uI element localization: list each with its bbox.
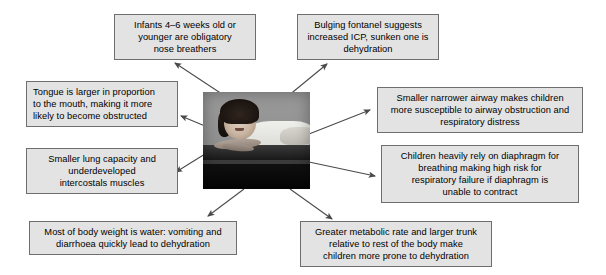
arrow-to-tongue: [181, 116, 205, 126]
box-line: Most of body weight is water: vomiting a…: [44, 226, 221, 238]
box-line: Smaller lung capacity and: [48, 153, 156, 165]
box-line: breathing making high risk for: [418, 162, 541, 174]
box-line: likely to become obstructed: [33, 110, 147, 122]
box-line: respiratory failure if diaphragm is: [412, 174, 549, 186]
box-line: respiratory distress: [440, 116, 520, 128]
box-line: dehydration: [343, 43, 392, 55]
box-line: unable to contract: [443, 186, 518, 198]
box-nose-breathers[interactable]: Infants 4–6 weeks old or younger are obl…: [114, 14, 256, 60]
center-photo: [203, 92, 310, 189]
box-metabolic-rate[interactable]: Greater metabolic rate and larger trunk …: [300, 221, 492, 267]
box-line: Smaller narrower airway makes children: [396, 92, 563, 104]
box-line: increased ICP, sunken one is: [307, 31, 428, 43]
box-line: to the mouth, making it more: [33, 98, 152, 110]
box-fontanel[interactable]: Bulging fontanel suggests increased ICP,…: [297, 14, 439, 60]
box-body-water[interactable]: Most of body weight is water: vomiting a…: [29, 221, 237, 255]
box-lung-capacity[interactable]: Smaller lung capacity and underdeveloped…: [26, 148, 178, 194]
box-airway[interactable]: Smaller narrower airway makes children m…: [377, 87, 583, 133]
box-line: underdeveloped: [68, 165, 135, 177]
box-line: diarrhoea quickly lead to dehydration: [56, 238, 210, 250]
arrow-to-diaphragm: [309, 162, 375, 176]
box-line: Bulging fontanel suggests: [314, 19, 422, 31]
box-line: younger are obligatory: [138, 31, 232, 43]
box-tongue[interactable]: Tongue is larger in proportion to the mo…: [26, 81, 178, 127]
arrow-to-airway: [309, 110, 370, 134]
box-line: more susceptible to airway obstruction a…: [391, 104, 569, 116]
box-line: nose breathers: [154, 43, 217, 55]
box-line: relative to rest of the body make: [329, 238, 463, 250]
box-line: Greater metabolic rate and larger trunk: [315, 226, 477, 238]
photo-vignette: [203, 92, 310, 189]
box-diaphragm[interactable]: Children heavily rely on diaphragm for b…: [381, 145, 579, 203]
box-line: Children heavily rely on diaphragm for: [401, 150, 559, 162]
box-line: intercostals muscles: [60, 177, 145, 189]
arrow-to-metabolic-rate: [290, 189, 332, 219]
box-line: Tongue is larger in proportion: [33, 86, 155, 98]
box-line: children more prone to dehydration: [323, 250, 469, 262]
arrow-to-body-water: [208, 189, 244, 216]
arrow-to-lung-capacity: [176, 154, 205, 172]
diagram-canvas: Infants 4–6 weeks old or younger are obl…: [0, 0, 606, 275]
box-line: Infants 4–6 weeks old or: [134, 19, 236, 31]
